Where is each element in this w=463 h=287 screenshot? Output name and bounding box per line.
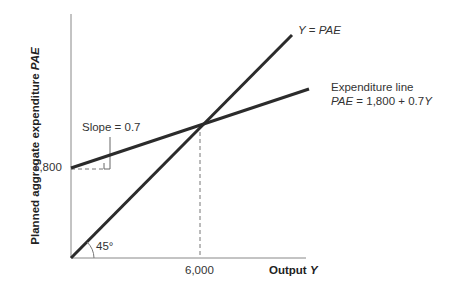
slope-label: Slope = 0.7 <box>82 121 141 133</box>
angle-label: 45° <box>96 240 113 252</box>
line45-label: Y = PAE <box>298 24 341 36</box>
expenditure-line-title: Expenditure line <box>331 80 432 94</box>
y-tick-1800: 1,800 <box>33 161 62 173</box>
chart-canvas <box>0 0 463 287</box>
right-angle-marker <box>104 167 110 169</box>
x-tick-6000: 6,000 <box>185 264 214 276</box>
expenditure-line-equation: PAE = 1,800 + 0.7Y <box>331 94 432 108</box>
x-axis-label: Output Y <box>269 264 318 276</box>
angle-arc <box>87 242 94 258</box>
line-y-equals-pae <box>71 35 292 258</box>
y-axis-label: Planned aggregate expenditure PAE <box>29 41 41 251</box>
expenditure-line-label: Expenditure line PAE = 1,800 + 0.7Y <box>331 80 432 108</box>
